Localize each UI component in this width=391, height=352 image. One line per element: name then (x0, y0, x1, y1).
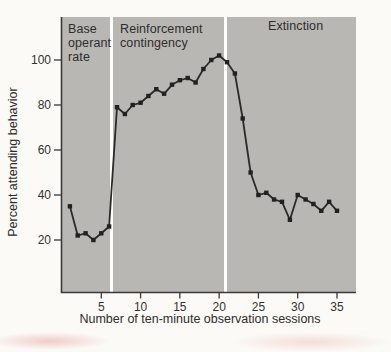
y-axis-title: Percent attending behavior (6, 62, 20, 262)
data-point-marker (154, 87, 158, 91)
data-point-marker (146, 94, 150, 98)
data-point-marker (76, 233, 80, 237)
y-tick-label: 60 (38, 143, 52, 157)
data-point-marker (272, 197, 276, 201)
data-point-marker (193, 80, 197, 84)
data-point-marker (264, 191, 268, 195)
data-point-marker (68, 204, 72, 208)
data-point-marker (201, 67, 205, 71)
data-point-marker (83, 231, 87, 235)
data-point-marker (303, 197, 307, 201)
data-point-marker (233, 71, 237, 75)
data-point-marker (319, 209, 323, 213)
data-point-marker (123, 112, 127, 116)
data-point-marker (241, 116, 245, 120)
data-point-marker (335, 209, 339, 213)
data-point-marker (178, 78, 182, 82)
data-point-marker (138, 101, 142, 105)
data-point-marker (311, 202, 315, 206)
data-point-marker (296, 193, 300, 197)
data-point-marker (327, 200, 331, 204)
data-point-marker (186, 76, 190, 80)
data-point-marker (162, 92, 166, 96)
data-point-marker (225, 60, 229, 64)
data-point-marker (107, 224, 111, 228)
y-tick-label: 100 (31, 53, 51, 67)
data-point-marker (91, 238, 95, 242)
y-tick-label: 80 (38, 98, 52, 112)
data-point-marker (280, 200, 284, 204)
data-point-marker (170, 83, 174, 87)
data-point-marker (288, 218, 292, 222)
x-axis-title: Number of ten-minute observation session… (40, 312, 360, 326)
data-point-marker (99, 231, 103, 235)
data-line (70, 56, 337, 241)
data-point-marker (209, 58, 213, 62)
data-point-marker (256, 193, 260, 197)
data-point-marker (131, 103, 135, 107)
y-tick-label: 20 (38, 233, 52, 247)
data-point-marker (217, 53, 221, 57)
y-tick-label: 40 (38, 188, 52, 202)
data-point-marker (115, 105, 119, 109)
data-point-marker (248, 170, 252, 174)
